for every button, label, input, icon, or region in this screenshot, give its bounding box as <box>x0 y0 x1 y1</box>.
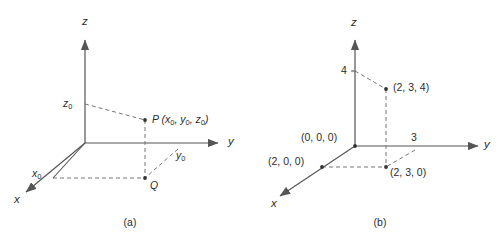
x-axis-line <box>280 146 355 196</box>
point-p-marker <box>143 118 147 122</box>
x0-label: x0 <box>32 168 41 179</box>
point-230-marker <box>384 165 388 169</box>
x0-label-sub: 0 <box>37 172 41 181</box>
panel-b-diagram <box>250 0 500 243</box>
figure-root: z y x z0 x0 y0 P (x0, y0, z0) Q (a) <box>0 0 500 243</box>
point-p-x-sub: 0 <box>170 118 174 127</box>
point-q-marker <box>143 176 147 180</box>
origin-point-label: (0, 0, 0) <box>301 132 337 143</box>
caption-a: (a) <box>100 216 160 228</box>
point-q-label: Q <box>150 180 158 191</box>
z-axis-label: z <box>351 17 357 29</box>
point-234-marker <box>384 87 388 91</box>
point-p-close: ) <box>205 113 209 125</box>
x-axis-label: x <box>271 198 277 210</box>
y-axis-label: y <box>484 139 490 151</box>
panel-a: z y x z0 x0 y0 P (x0, y0, z0) Q (a) <box>0 0 250 243</box>
y0-label-sub: 0 <box>181 154 185 163</box>
x-axis-label: x <box>14 194 20 206</box>
y-tick-label-3: 3 <box>411 132 417 143</box>
z-tick-label-4: 4 <box>341 65 347 76</box>
point-p-y: y <box>180 113 185 125</box>
point-p-name: P <box>152 113 159 125</box>
z0-label-sub: 0 <box>68 102 72 111</box>
y0-label: y0 <box>176 150 185 161</box>
dashed-ztick-to-point <box>355 71 386 89</box>
panel-b: z y x 4 3 (0, 0, 0) (2, 0, 0) (2, 3, 0) … <box>250 0 500 243</box>
y-axis-label: y <box>228 136 234 148</box>
point-200-label: (2, 0, 0) <box>268 156 304 167</box>
dashed-z0-to-p <box>85 104 145 120</box>
origin-marker <box>353 144 357 148</box>
point-p-z-sub: 0 <box>201 118 205 127</box>
point-p-y-sub: 0 <box>186 118 190 127</box>
point-230-label: (2, 3, 0) <box>390 167 426 178</box>
point-200-marker <box>320 165 324 169</box>
floor-edge-x <box>53 143 85 178</box>
dashed-ytick-to-floor-point <box>386 150 415 167</box>
dashed-y0-to-q <box>145 149 178 178</box>
panel-a-diagram <box>0 0 250 243</box>
caption-b: (b) <box>350 216 410 228</box>
point-p-label: P (x0, y0, z0) <box>152 114 209 125</box>
point-234-label: (2, 3, 4) <box>393 82 429 93</box>
z0-label: z0 <box>63 98 72 109</box>
z-axis-label: z <box>82 16 88 28</box>
